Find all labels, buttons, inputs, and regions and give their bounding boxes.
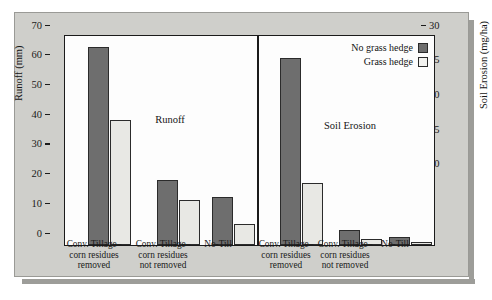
y-tick-label-left-40: 40 xyxy=(15,108,42,119)
bar-runoff-g1-no-grass-hedge xyxy=(88,47,109,245)
x-axis-label-4: Conv. Tillage–corn residuesremoved xyxy=(259,239,314,271)
bar-runoff-g3-grass-hedge xyxy=(234,224,255,245)
y-tick-mark-left-70 xyxy=(45,25,50,26)
y-tick-mark-left-0 xyxy=(45,233,50,234)
legend-swatch-no-grass-hedge xyxy=(418,43,428,53)
x-axis-label-2: Conv. Tillage–corn residuesnot removed xyxy=(136,239,191,271)
y-tick-label-left-70: 70 xyxy=(15,19,42,30)
x-axis-label-3: No-Till xyxy=(204,239,232,250)
card-shadow-bottom xyxy=(22,279,475,284)
y-tick-label-left-60: 60 xyxy=(15,49,42,60)
panel-divider xyxy=(257,36,259,245)
card-shadow-right xyxy=(469,20,474,284)
x-axis-label-line: No-Till xyxy=(204,239,232,250)
y-tick-mark-left-50 xyxy=(45,84,50,85)
y-tick-mark-left-20 xyxy=(45,173,50,174)
y-tick-mark-right-30 xyxy=(421,25,426,26)
bar-soil-erosion-g1-no-grass-hedge xyxy=(280,58,301,245)
chart-legend: No grass hedge Grass hedge xyxy=(351,42,428,70)
x-axis-label-line: corn residues xyxy=(136,250,191,261)
bar-runoff-g2-no-grass-hedge xyxy=(157,180,178,245)
x-axis-label-5: Conv. Tillage–corn residuesnot removed xyxy=(318,239,373,271)
x-axis-label-1: Conv. Tillage–corn residuesremoved xyxy=(67,239,122,271)
y-tick-mark-left-10 xyxy=(45,203,50,204)
x-axis-label-line: Conv. Tillage– xyxy=(259,239,314,250)
bar-runoff-g3-no-grass-hedge xyxy=(212,197,233,245)
x-axis-label-line: No-Till xyxy=(381,239,409,250)
panel-title-soil-erosion: Soil Erosion xyxy=(324,120,376,131)
x-axis-label-line: not removed xyxy=(136,260,191,271)
x-axis-label-line: Conv. Tillage– xyxy=(136,239,191,250)
panel-title-runoff: Runoff xyxy=(155,114,185,125)
x-axis-label-line: Conv. Tillage– xyxy=(318,239,373,250)
y-tick-mark-left-40 xyxy=(45,114,50,115)
chart-card: Runoff (mm) Soil Erosion (mg/ha) 0102030… xyxy=(14,12,469,277)
bar-runoff-g1-grass-hedge xyxy=(110,120,131,245)
plot-area: Runoff Soil Erosion No grass hedge Grass… xyxy=(64,35,435,246)
x-axis-label-line: removed xyxy=(67,260,122,271)
legend-item-no-grass-hedge: No grass hedge xyxy=(351,42,428,53)
bar-soil-erosion-g3-grass-hedge xyxy=(411,242,432,245)
legend-item-grass-hedge: Grass hedge xyxy=(351,56,428,67)
y-tick-label-left-20: 20 xyxy=(15,168,42,179)
legend-label-no-grass-hedge: No grass hedge xyxy=(351,42,413,53)
y-axis-label-right: Soil Erosion (mg/ha) xyxy=(478,21,489,109)
x-axis-label-line: not removed xyxy=(318,260,373,271)
y-tick-mark-left-30 xyxy=(45,143,50,144)
x-axis-label-line: corn residues xyxy=(67,250,122,261)
y-tick-mark-left-60 xyxy=(45,54,50,55)
x-axis-label-line: corn residues xyxy=(259,250,314,261)
y-tick-label-left-50: 50 xyxy=(15,78,42,89)
legend-label-grass-hedge: Grass hedge xyxy=(364,56,413,67)
bar-soil-erosion-g1-grass-hedge xyxy=(302,183,323,245)
y-tick-label-left-30: 30 xyxy=(15,138,42,149)
y-tick-label-left-0: 0 xyxy=(15,227,42,238)
x-axis-label-6: No-Till xyxy=(381,239,409,250)
x-axis-label-line: corn residues xyxy=(318,250,373,261)
legend-swatch-grass-hedge xyxy=(418,57,428,67)
y-tick-label-right-30: 30 xyxy=(429,19,440,30)
x-axis-label-line: removed xyxy=(259,260,314,271)
x-axis-label-line: Conv. Tillage– xyxy=(67,239,122,250)
y-tick-label-left-10: 10 xyxy=(15,197,42,208)
